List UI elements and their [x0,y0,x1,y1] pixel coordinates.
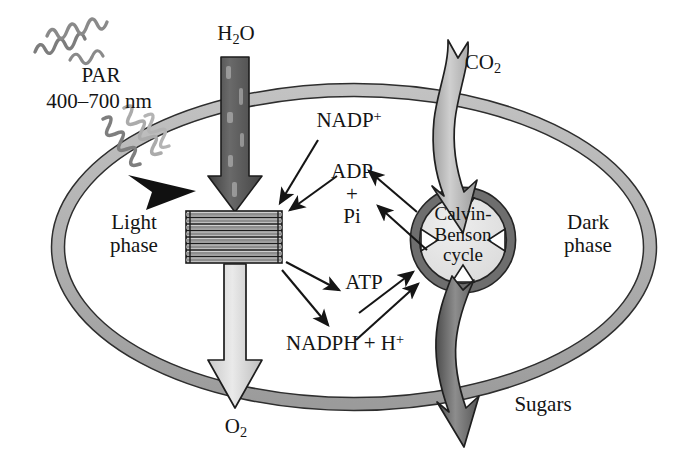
atp-label: ATP [345,271,382,294]
calvin-benson-cycle-label: Calvin-Bensoncycle [435,204,492,266]
nadph-label: NADPH + H+ [286,332,404,355]
arrow-granum-to-nadph [282,270,328,325]
sugars-label: Sugars [514,393,571,416]
light-phase-label: Lightphase [110,211,158,256]
dark-phase-label: Darkphase [564,211,612,256]
carbon-dioxide-label: CO2 [465,51,501,76]
arrow-cycle-to-nadp [369,171,417,212]
thylakoid-granum-stack [186,211,282,263]
par-wave-icon [35,19,107,64]
adp-pi-label: ADP+Pi [331,160,373,228]
sugars-outflow-ribbon-arrow [436,276,479,447]
figure-canvas: H2O O2 PAR 400–700 nm Lightphase Darkpha… [0,0,684,474]
light-entry-arrowhead [128,175,196,210]
water-inflow-arrow [208,57,262,212]
par-label: PAR [82,64,121,87]
arrow-adppi-to-granum [290,176,337,210]
oxygen-label: O2 [225,415,247,440]
nadp-plus-label: NADP+ [316,109,381,132]
par-range-label: 400–700 nm [46,90,152,113]
water-label: H2O [217,22,254,47]
